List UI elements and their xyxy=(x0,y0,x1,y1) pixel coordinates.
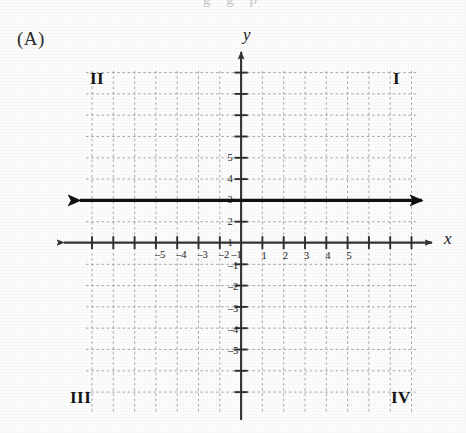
x-tick-label-4: 4 xyxy=(325,251,330,262)
y-tick-label-4: 4 xyxy=(227,174,232,185)
y-tick-label-5: 5 xyxy=(227,153,232,164)
worksheet-figure: g g p (A) xyxy=(0,0,466,433)
y-tick-label-3: 3 xyxy=(227,195,232,206)
x-tick-label-2: 2 xyxy=(283,251,288,262)
x-tick-label-5: 5 xyxy=(347,251,352,262)
x-axis-label: x xyxy=(444,230,452,247)
x-tick-label-neg2: –2 xyxy=(219,250,229,261)
quadrant-label-3: III xyxy=(70,389,91,406)
x-tick-label-neg5: –5 xyxy=(155,250,165,261)
coordinate-plane-svg xyxy=(0,0,466,433)
y-axis-label: y xyxy=(243,26,251,43)
y-tick-label-neg5: –5 xyxy=(228,346,238,357)
y-tick-label-neg3: –3 xyxy=(228,303,238,314)
x-tick-label-1: 1 xyxy=(261,251,266,262)
y-tick-label-neg2: –2 xyxy=(228,282,238,293)
quadrant-label-1: I xyxy=(393,70,400,87)
x-tick-label-neg1: –1 xyxy=(231,250,241,261)
y-tick-label-2: 2 xyxy=(227,216,232,227)
y-tick-label-neg4: –4 xyxy=(228,325,238,336)
x-tick-label-neg3: –3 xyxy=(198,250,208,261)
quadrant-label-4: IV xyxy=(391,389,411,406)
y-tick-label-neg1: –1 xyxy=(228,261,238,272)
y-tick-label-1: 1 xyxy=(227,238,232,249)
quadrant-label-2: II xyxy=(90,70,104,87)
x-tick-label-3: 3 xyxy=(304,251,309,262)
x-tick-label-neg4: –4 xyxy=(176,250,186,261)
coordinate-plane xyxy=(0,0,466,433)
